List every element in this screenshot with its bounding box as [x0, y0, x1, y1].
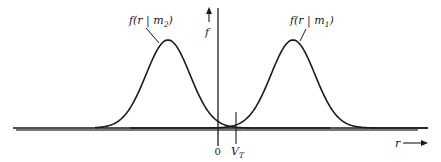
x-axis-label: r [395, 137, 401, 150]
leader-line-m1 [300, 29, 306, 41]
origin-label: 0 [215, 146, 221, 157]
curve-label-m2: f(r | m2) [128, 14, 173, 29]
up-arrow-icon [206, 7, 212, 14]
leader-line-m2 [146, 28, 159, 43]
curve-label-m1: f(r | m1) [289, 14, 334, 29]
right-arrow-icon [421, 140, 428, 146]
curve-f-r-m1 [130, 40, 428, 128]
curve-f-r-m2 [95, 40, 330, 128]
threshold-label: VT [231, 145, 245, 160]
diagram-canvas: f 0 VT r f(r | m2) f(r | m1) [0, 0, 441, 162]
y-axis-label: f [204, 26, 211, 39]
